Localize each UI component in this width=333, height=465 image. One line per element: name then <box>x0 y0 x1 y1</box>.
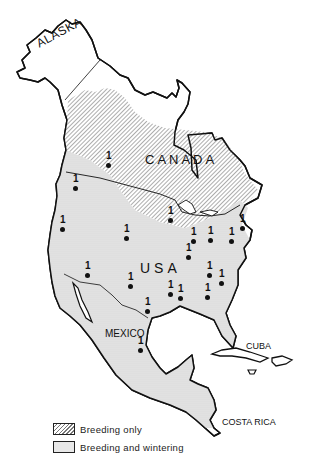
point-count-label: 1 <box>219 269 225 279</box>
legend-label: Breeding and wintering <box>80 442 184 453</box>
hispaniola-island <box>272 356 292 366</box>
location-dot-icon <box>240 226 245 231</box>
location-dot-icon <box>205 295 210 300</box>
location-dot-icon <box>168 218 173 223</box>
location-dot-icon <box>128 284 133 289</box>
legend-item-breeding-only: Breeding only <box>53 420 184 438</box>
point-count-label: 1 <box>128 272 134 282</box>
location-dot-icon <box>186 255 191 260</box>
point-count-label: 1 <box>124 224 130 234</box>
point-count-label: 1 <box>106 151 112 161</box>
point-count-label: 1 <box>191 227 197 237</box>
jamaica-island <box>248 370 256 374</box>
point-count-label: 1 <box>207 261 213 271</box>
point-count-label: 1 <box>178 284 184 294</box>
point-count-label: 1 <box>168 280 174 290</box>
north-america-map <box>0 0 333 465</box>
location-dot-icon <box>124 236 129 241</box>
legend-item-breeding-and-wintering: Breeding and wintering <box>53 438 184 456</box>
label-costa-rica: COSTA RICA <box>222 417 276 427</box>
point-count-label: 1 <box>138 336 144 346</box>
point-count-label: 1 <box>145 297 151 307</box>
stippled-swatch-icon <box>53 441 75 453</box>
point-count-label: 1 <box>186 243 192 253</box>
point-count-label: 1 <box>229 227 235 237</box>
point-count-label: 1 <box>240 214 246 224</box>
label-cuba: CUBA <box>246 341 271 351</box>
location-dot-icon <box>168 292 173 297</box>
label-usa: USA <box>140 260 181 276</box>
location-dot-icon <box>85 273 90 278</box>
label-canada: CANADA <box>145 152 217 167</box>
point-count-label: 1 <box>205 283 211 293</box>
point-count-label: 1 <box>73 174 79 184</box>
location-dot-icon <box>229 239 234 244</box>
location-dot-icon <box>60 227 65 232</box>
point-count-label: 1 <box>85 261 91 271</box>
hatched-swatch-icon <box>53 423 75 435</box>
point-count-label: 1 <box>208 226 214 236</box>
location-dot-icon <box>208 238 213 243</box>
legend: Breeding only Breeding and wintering <box>53 420 184 456</box>
location-dot-icon <box>106 163 111 168</box>
location-dot-icon <box>138 348 143 353</box>
location-dot-icon <box>207 273 212 278</box>
location-dot-icon <box>178 296 183 301</box>
point-count-label: 1 <box>168 206 174 216</box>
location-dot-icon <box>219 281 224 286</box>
location-dot-icon <box>73 186 78 191</box>
legend-label: Breeding only <box>80 424 142 435</box>
point-count-label: 1 <box>60 215 66 225</box>
location-dot-icon <box>145 309 150 314</box>
